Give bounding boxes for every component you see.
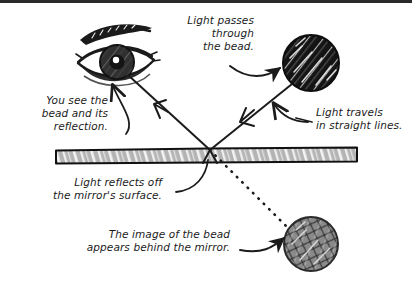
bead	[283, 35, 339, 91]
incident-ray	[210, 84, 292, 150]
reflected-ray	[128, 75, 210, 150]
label-light-travels-straight-lines: Light travels in straight lines.	[316, 106, 412, 132]
leader-image-behind	[240, 238, 284, 251]
label-image-appears-behind-mirror: The image of the bead appears behind the…	[72, 228, 230, 254]
leader-light-reflects	[176, 160, 208, 192]
diagram-canvas: Light passes through the bead. You see t…	[0, 0, 412, 282]
label-light-reflects-off-mirror: Light reflects off the mirror's surface.	[18, 176, 162, 202]
eye	[76, 24, 160, 85]
leader-you-see	[113, 86, 129, 134]
label-light-passes-through-bead: Light passes through the bead.	[168, 14, 254, 53]
leader-light-passes	[230, 66, 280, 76]
image-of-bead	[284, 217, 338, 271]
label-you-see-bead-and-reflection: You see the bead and its reflection.	[18, 94, 108, 133]
